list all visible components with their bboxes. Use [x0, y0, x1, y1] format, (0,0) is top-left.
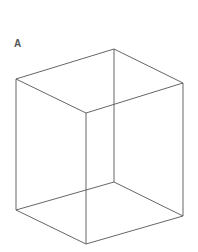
edge-bottom-right-front — [86, 216, 183, 244]
edge-bottom-back-right — [114, 182, 183, 216]
edge-top-front-left — [16, 79, 86, 113]
edge-bottom-front-left — [16, 210, 86, 244]
edge-top-left-back — [16, 49, 114, 79]
wireframe-cube — [0, 0, 198, 252]
edge-top-right-front — [86, 83, 183, 113]
edge-bottom-left-back — [16, 182, 114, 210]
edge-top-back-right — [114, 49, 183, 83]
